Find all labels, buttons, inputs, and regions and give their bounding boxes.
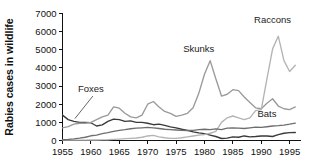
series-label-raccons: Raccons: [254, 14, 291, 25]
foxes-leader-line: [75, 96, 93, 119]
rabies-wildlife-line-chart: 0100020003000400050006000700019551960196…: [0, 0, 309, 167]
x-tick-label: 1970: [137, 146, 158, 157]
y-tick-label: 1000: [35, 117, 56, 128]
y-tick-label: 5000: [35, 44, 56, 55]
y-tick-label: 4000: [35, 62, 56, 73]
chart-canvas: 0100020003000400050006000700019551960196…: [0, 0, 309, 167]
y-tick-label: 2000: [35, 99, 56, 110]
y-tick-label: 7000: [35, 8, 56, 19]
y-tick-label: 3000: [35, 80, 56, 91]
y-axis-title: Rabies cases in wildlife: [3, 18, 15, 135]
x-tick-label: 1965: [109, 146, 130, 157]
series-label-foxes: Foxes: [78, 83, 104, 94]
series-label-skunks: Skunks: [183, 43, 214, 54]
y-tick-label: 6000: [35, 26, 56, 37]
x-tick-label: 1955: [52, 146, 73, 157]
x-tick-label: 1960: [80, 146, 101, 157]
x-tick-label: 1985: [222, 146, 243, 157]
x-tick-label: 1990: [251, 146, 272, 157]
x-tick-label: 1975: [166, 146, 187, 157]
y-tick-label: 0: [51, 135, 56, 146]
series-label-bats: Bats: [257, 108, 276, 119]
x-tick-label: 1995: [279, 146, 300, 157]
x-tick-label: 1980: [194, 146, 215, 157]
